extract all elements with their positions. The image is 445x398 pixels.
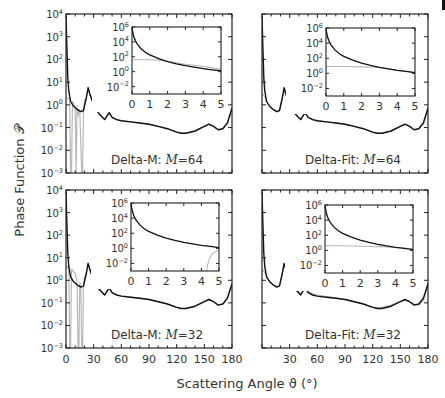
panel-label: Delta-M: M=32 <box>111 328 203 342</box>
x-tick-label: 30 <box>283 353 297 366</box>
x-tick-label: 180 <box>222 353 243 366</box>
inset-x-tick-label: 0 <box>129 98 136 111</box>
inset-bottom-left: 10−2100102104106012345 <box>91 197 223 290</box>
panel-bottom-right: 306090120150180Delta-Fit: M=3210−2100102… <box>262 190 439 366</box>
inset-x-tick-label: 2 <box>164 98 171 111</box>
inset-bottom-right: 10−2100102104106012345 <box>285 199 417 292</box>
phase-function-figure: 10−310−210−1100101102103104Delta-M: M=64… <box>0 0 445 398</box>
inset-x-tick-label: 0 <box>323 100 330 113</box>
inset-x-tick-label: 0 <box>322 277 329 290</box>
panel-top-left: 10−310−210−1100101102103104Delta-M: M=64… <box>41 8 232 180</box>
inset-x-tick-label: 4 <box>200 98 207 111</box>
y-tick-label: 102 <box>46 229 63 242</box>
x-tick-label: 150 <box>194 353 215 366</box>
inset-x-tick-label: 3 <box>180 275 187 288</box>
inset-top-right: 10−2100102104106012345 <box>286 22 419 115</box>
y-tick-label: 100 <box>46 98 63 111</box>
inset-x-tick-label: 2 <box>358 100 365 113</box>
y-tick-label: 102 <box>46 53 63 66</box>
y-tick-label: 10−2 <box>41 319 63 332</box>
y-tick-label: 100 <box>46 274 63 287</box>
x-tick-label: 120 <box>362 353 383 366</box>
y-tick-label: 101 <box>46 76 63 89</box>
y-tick-label: 10−3 <box>41 342 63 355</box>
x-tick-label: 90 <box>142 353 156 366</box>
panel-bottom-left: 10−310−210−11001011021031040306090120150… <box>41 184 243 367</box>
x-tick-label: 30 <box>87 353 101 366</box>
inset-x-tick-label: 4 <box>198 275 205 288</box>
inset-x-tick-label: 0 <box>128 275 135 288</box>
panel-label: Delta-Fit: M=64 <box>305 153 401 167</box>
y-tick-label: 101 <box>46 251 63 264</box>
inset-x-tick-label: 5 <box>410 277 417 290</box>
x-tick-label: 0 <box>63 353 70 366</box>
inset-x-tick-label: 4 <box>394 100 401 113</box>
inset-x-tick-label: 1 <box>146 98 153 111</box>
inset-x-tick-label: 5 <box>216 275 223 288</box>
y-tick-label: 103 <box>46 206 63 219</box>
inset-x-tick-label: 2 <box>357 277 364 290</box>
panel-label: Delta-Fit: M=32 <box>305 328 401 342</box>
x-tick-label: 150 <box>390 353 411 366</box>
panel-label: Delta-M: M=64 <box>111 153 203 167</box>
y-tick-label: 10−1 <box>41 296 63 309</box>
y-axis-title: Phase Function 𝒫 <box>12 123 27 236</box>
x-tick-label: 60 <box>310 353 324 366</box>
inset-x-tick-label: 5 <box>218 98 225 111</box>
inset-x-tick-label: 2 <box>163 275 170 288</box>
inset-x-tick-label: 4 <box>392 277 399 290</box>
inset-x-tick-label: 3 <box>182 98 189 111</box>
y-tick-label: 10−2 <box>41 144 63 157</box>
x-tick-label: 120 <box>166 353 187 366</box>
inset-x-tick-label: 3 <box>374 277 381 290</box>
y-tick-label: 10−3 <box>41 167 63 180</box>
inset-x-tick-label: 5 <box>412 100 419 113</box>
y-tick-label: 104 <box>46 8 63 21</box>
inset-x-tick-label: 1 <box>340 100 347 113</box>
y-tick-label: 104 <box>46 184 63 197</box>
y-tick-label: 103 <box>46 30 63 43</box>
inset-x-tick-label: 3 <box>376 100 383 113</box>
inset-x-tick-label: 1 <box>145 275 152 288</box>
x-axis-title: Scattering Angle ϑ (°) <box>176 376 317 391</box>
inset-top-left: 10−2100102104106012345 <box>92 21 225 113</box>
x-tick-label: 180 <box>418 353 439 366</box>
x-tick-label: 90 <box>338 353 352 366</box>
y-tick-label: 10−1 <box>41 121 63 134</box>
panel-top-right: Delta-Fit: M=6410−2100102104106012345 <box>262 14 428 173</box>
x-tick-label: 60 <box>114 353 128 366</box>
inset-x-tick-label: 1 <box>339 277 346 290</box>
